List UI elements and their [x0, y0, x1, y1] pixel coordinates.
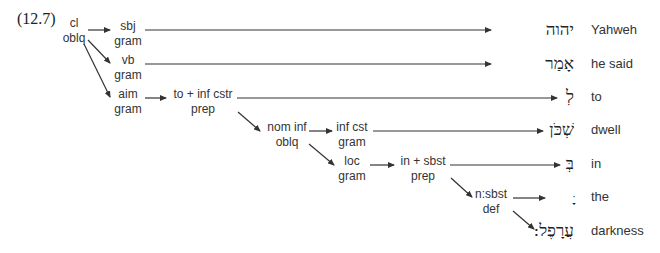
node-to-inf-cstr: to + inf cstr prep — [173, 87, 232, 117]
node-label-top: n:sbst — [475, 187, 507, 202]
node-label-bottom: gram — [114, 34, 141, 49]
node-subject: sbj gram — [114, 19, 141, 49]
hebrew-word: יהוה — [546, 19, 574, 40]
node-label-top: vb — [114, 53, 141, 68]
arrow-root-to-aim — [84, 44, 110, 97]
syntax-tree-diagram: (12.7) cl oblq sbj gram vb gram aim gram… — [0, 0, 660, 253]
arrow-insbst-to-nsbst — [451, 178, 472, 197]
node-label-bottom: def — [475, 202, 507, 217]
hebrew-word: שְׁכֹּן — [549, 119, 574, 140]
arrow-nominf-to-loc — [309, 144, 334, 165]
node-label-top: inf cst — [336, 120, 367, 135]
node-inf-cst: inf cst gram — [336, 120, 367, 150]
node-label-bottom: gram — [114, 68, 141, 83]
node-label-bottom: oblq — [63, 31, 86, 46]
arrow-nsbst-to-noun — [513, 211, 534, 229]
node-label-bottom: gram — [338, 169, 365, 184]
gloss: the — [591, 189, 609, 204]
node-verb: vb gram — [114, 53, 141, 83]
node-locative: loc gram — [338, 154, 365, 184]
node-nom-inf: nom inf oblq — [267, 120, 306, 150]
hebrew-word: עֲרָפֶל: — [533, 220, 574, 241]
arrow-prep-to-nominf — [238, 112, 260, 131]
node-aim: aim gram — [114, 87, 141, 117]
node-label-bottom: oblq — [267, 135, 306, 150]
node-label-top: in + sbst — [400, 154, 445, 169]
hebrew-word: בְּ — [566, 153, 574, 174]
hebrew-word: לְ — [566, 86, 574, 107]
node-label-top: nom inf — [267, 120, 306, 135]
node-label-bottom: gram — [114, 102, 141, 117]
node-label-top: sbj — [114, 19, 141, 34]
hebrew-word: אָמַר — [545, 53, 574, 74]
node-label-top: cl — [63, 16, 86, 31]
node-in-sbst: in + sbst prep — [400, 154, 445, 184]
gloss: dwell — [591, 122, 621, 137]
node-label-top: loc — [338, 154, 365, 169]
example-number: (12.7) — [17, 10, 56, 28]
node-label-bottom: prep — [173, 102, 232, 117]
node-label-bottom: gram — [336, 135, 367, 150]
gloss: to — [591, 89, 602, 104]
node-label-top: to + inf cstr — [173, 87, 232, 102]
node-label-top: aim — [114, 87, 141, 102]
node-n-sbst-def: n:sbst def — [475, 187, 507, 217]
gloss: in — [591, 156, 601, 171]
gloss: he said — [591, 56, 633, 71]
node-clause-oblique: cl oblq — [63, 16, 86, 46]
gloss: Yahweh — [591, 22, 637, 37]
node-label-bottom: prep — [400, 169, 445, 184]
gloss: darkness — [591, 223, 644, 238]
